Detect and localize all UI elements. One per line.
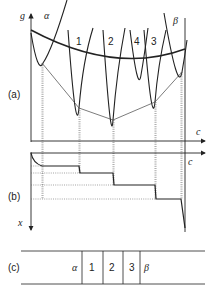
layer-2: 2 xyxy=(109,262,115,273)
beta-label: β xyxy=(172,15,178,26)
c-axis-b-label: c xyxy=(188,156,193,167)
phase-3-label: 3 xyxy=(151,36,157,47)
step-guide-lines xyxy=(31,166,156,199)
phase-4-label: 4 xyxy=(134,36,140,47)
g-axis-label: g xyxy=(20,10,25,21)
drop-lines xyxy=(42,63,182,199)
c-axis-a-label: c xyxy=(196,126,201,137)
phase-diagram-figure: g α 1 2 4 3 β (a) c c (b) x (c) α 1 xyxy=(0,0,215,288)
panel-b-label: (b) xyxy=(8,191,20,202)
layer-beta: β xyxy=(143,262,149,273)
panel-b: c (b) x xyxy=(8,152,205,230)
common-tangent-hull xyxy=(42,63,182,120)
concentration-profile xyxy=(31,153,185,228)
layer-1: 1 xyxy=(89,262,95,273)
layer-alpha: α xyxy=(72,262,78,273)
phase-2-curve xyxy=(103,28,125,126)
phase-2-label: 2 xyxy=(108,36,114,47)
layer-3: 3 xyxy=(129,262,135,273)
phase-1-label: 1 xyxy=(76,36,82,47)
panel-a: g α 1 2 4 3 β (a) c xyxy=(8,0,205,232)
panel-c-label: (c) xyxy=(8,262,20,273)
x-axis-label: x xyxy=(17,217,23,228)
alpha-label: α xyxy=(44,10,50,21)
panel-c: (c) α 1 2 3 β xyxy=(8,251,205,284)
panel-a-label: (a) xyxy=(8,89,20,100)
